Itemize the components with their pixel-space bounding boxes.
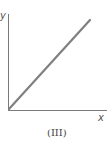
- x-axis-label: x: [98, 113, 104, 123]
- y-axis-label: y: [0, 11, 6, 21]
- linear-line: [9, 20, 90, 109]
- figure-caption: (III): [47, 128, 67, 138]
- graph: [0, 0, 107, 145]
